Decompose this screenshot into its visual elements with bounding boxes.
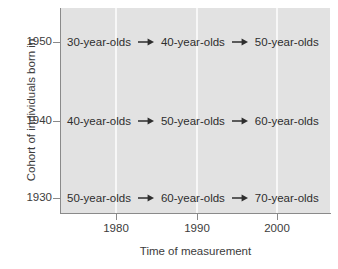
right-arrow-icon <box>232 35 248 49</box>
right-arrow-icon <box>232 114 248 128</box>
cohort-row-1940: 40-year-olds 50-year-olds 60-year-olds <box>67 114 319 128</box>
right-arrow-icon <box>138 114 154 128</box>
y-axis-title: Cohort of individuals born in <box>25 0 37 225</box>
cohort-cell-label: 50-year-olds <box>161 114 225 128</box>
cohort-cell-label: 70-year-olds <box>255 191 319 205</box>
x-tick-label-2000: 2000 <box>254 222 300 234</box>
right-arrow-icon <box>138 35 154 49</box>
x-tick-2000 <box>277 214 278 220</box>
y-tick-1940 <box>53 121 60 122</box>
y-axis-line <box>60 8 61 214</box>
y-tick-1930 <box>53 198 60 199</box>
x-axis-line <box>60 213 331 214</box>
right-arrow-icon <box>138 191 154 205</box>
cohort-cell-label: 60-year-olds <box>255 114 319 128</box>
cohort-row-1950: 30-year-olds 40-year-olds 50-year-olds <box>67 35 319 49</box>
cohort-cell-label: 40-year-olds <box>67 114 131 128</box>
cohort-cell-label: 50-year-olds <box>255 35 319 49</box>
cohort-cell-label: 30-year-olds <box>67 35 131 49</box>
cohort-sequential-design-figure: 30-year-olds 40-year-olds 50-year-olds 4… <box>0 0 338 269</box>
cohort-cell-label: 40-year-olds <box>161 35 225 49</box>
y-tick-1950 <box>53 42 60 43</box>
x-tick-label-1980: 1980 <box>93 222 139 234</box>
cohort-cell-label: 50-year-olds <box>67 191 131 205</box>
cohort-row-1930: 50-year-olds 60-year-olds 70-year-olds <box>67 191 319 205</box>
x-tick-1980 <box>116 214 117 220</box>
plot-area: 30-year-olds 40-year-olds 50-year-olds 4… <box>61 8 330 213</box>
cohort-cell-label: 60-year-olds <box>161 191 225 205</box>
x-tick-label-1990: 1990 <box>174 222 220 234</box>
x-tick-1990 <box>197 214 198 220</box>
right-arrow-icon <box>232 191 248 205</box>
x-axis-title: Time of measurement <box>61 245 330 257</box>
